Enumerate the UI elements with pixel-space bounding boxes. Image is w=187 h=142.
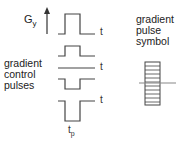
pulse-small-positive (58, 46, 95, 56)
gradient-pulse-symbol-label: gradient pulse symbol (136, 14, 174, 47)
pulse-large-positive (58, 14, 95, 34)
gradient-pulse-symbol (139, 62, 176, 105)
pulse-duration-label: tp (68, 124, 75, 137)
time-label-3: t (100, 94, 103, 105)
pulse-small-negative (58, 79, 95, 89)
gy-axis-arrow (44, 7, 50, 34)
gradient-control-pulses-label: gradient control pulses (4, 58, 42, 91)
time-label-1: t (100, 26, 103, 37)
gy-axis-label: Gy (24, 14, 37, 29)
time-label-2: t (100, 61, 103, 72)
gradient-diagram: Gy gradient control pulses gradient puls… (0, 0, 187, 142)
pulse-large-negative (58, 101, 95, 121)
